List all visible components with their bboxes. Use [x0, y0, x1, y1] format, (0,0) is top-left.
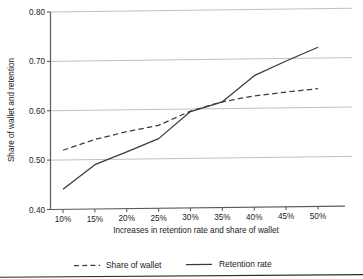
y-tick-label: 0.70: [29, 57, 45, 66]
x-tick-label: 25%: [150, 214, 166, 223]
y-tick-label: 0.50: [29, 156, 45, 165]
x-tick-label: 35%: [214, 213, 230, 222]
y-tick-label: 0.40: [29, 206, 45, 215]
y-axis-title: Share of wallet and retention: [7, 57, 16, 162]
y-tick-label: 0.80: [29, 8, 45, 17]
line-chart: 0.800.700.600.500.40 10%15%20%25%30%35%4…: [0, 0, 363, 279]
x-tick-label: 45%: [278, 212, 294, 221]
x-tick-label: 50%: [310, 212, 326, 221]
legend-label-retention-rate: Retention rate: [219, 259, 272, 269]
chart-figure: 0.800.700.600.500.40 10%15%20%25%30%35%4…: [0, 0, 363, 279]
x-axis-title: Increases in retention rate and share of…: [113, 226, 279, 235]
x-tick-label: 40%: [246, 213, 262, 222]
x-tick-label: 30%: [182, 213, 198, 222]
x-tick-label: 15%: [87, 215, 103, 224]
x-tick-label: 10%: [55, 215, 71, 224]
y-tick-label: 0.60: [29, 107, 45, 116]
x-tick-label: 20%: [119, 214, 135, 223]
legend-label-share-of-wallet: Share of wallet: [106, 260, 162, 270]
chart-background: [0, 0, 363, 279]
